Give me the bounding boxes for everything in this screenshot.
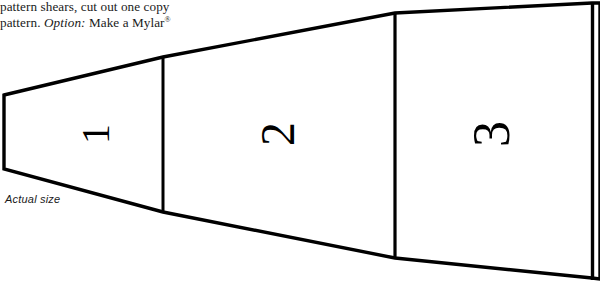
segment-number-1: 1 — [76, 104, 116, 164]
segment-number-2: 2 — [254, 104, 302, 164]
pattern-page: pattern shears, cut out one copy pattern… — [0, 0, 600, 288]
segment-number-3: 3 — [466, 104, 518, 164]
actual-size-label: Actual size — [5, 193, 60, 205]
